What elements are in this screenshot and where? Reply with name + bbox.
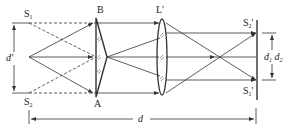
label-s1: S1	[24, 9, 33, 20]
label-b: B	[97, 5, 104, 15]
label-a: A	[94, 99, 101, 109]
label-d-prime: d'	[6, 53, 13, 63]
label-d: d	[138, 114, 143, 124]
label-d1-d2: d1 d2	[264, 52, 283, 63]
label-s2: S2	[24, 97, 33, 108]
label-s2-image: S2'	[243, 18, 253, 29]
label-s1-image: S1'	[243, 86, 253, 97]
virtual-rays	[29, 23, 96, 93]
label-lens: L'	[156, 5, 164, 15]
